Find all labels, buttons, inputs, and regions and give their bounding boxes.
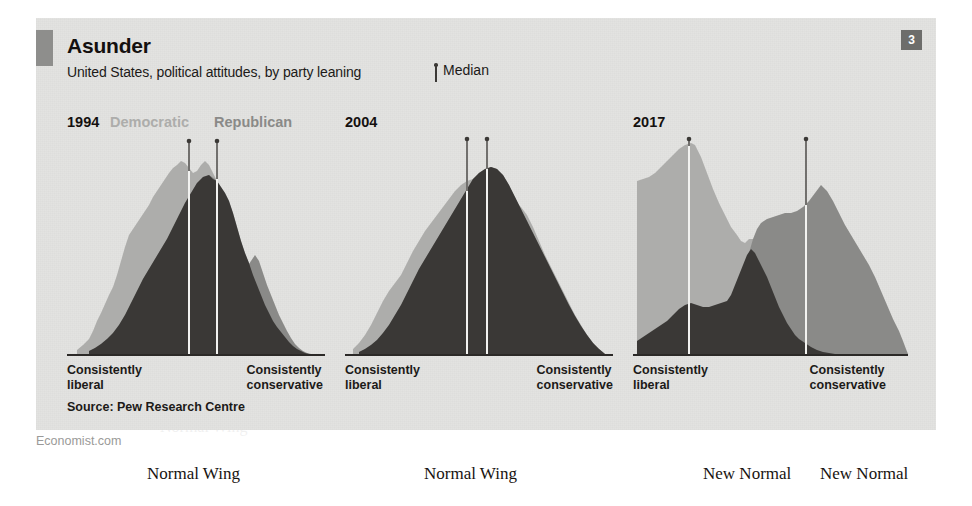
legend-median: Median	[434, 62, 489, 82]
axis-caption-right: Consistently conservative	[247, 363, 323, 392]
plot-area-2004	[345, 135, 613, 354]
plot-area-2017	[633, 135, 908, 354]
annotation-new-normal-left: New Normal	[703, 464, 791, 484]
axis-caption-right-line2: conservative	[810, 378, 886, 393]
axis-caption-right: Consistently conservative	[810, 363, 886, 392]
baseline-axis	[633, 354, 908, 356]
median-marker-icon	[434, 63, 438, 82]
axis-caption-left-line2: liberal	[633, 378, 708, 393]
axis-caption-left-line1: Consistently	[633, 363, 708, 378]
axis-caption-left-line1: Consistently	[67, 363, 142, 378]
annotation-normal-wing-2004: Normal Wing	[424, 464, 517, 484]
axis-caption-right-line2: conservative	[537, 378, 613, 393]
axis-caption-left-line1: Consistently	[345, 363, 420, 378]
area-chart-svg	[633, 135, 908, 354]
source-note: Source: Pew Research Centre	[67, 400, 245, 414]
panel-1994: 1994 Democratic Republican	[67, 114, 325, 404]
chart-title: Asunder	[67, 34, 151, 58]
screenshot-root: Normal Wing 3 Asunder United States, pol…	[0, 0, 972, 506]
panel-year-label: 2017	[633, 114, 665, 130]
panel-year-label: 2004	[345, 114, 377, 130]
axis-caption-right-line2: conservative	[247, 378, 323, 393]
axis-caption-right-line1: Consistently	[810, 363, 886, 378]
plot-area-1994	[67, 135, 325, 354]
panel-year-label: 1994	[67, 114, 99, 130]
series-overlap-area	[359, 167, 605, 354]
baseline-axis	[67, 354, 325, 356]
legend-republican: Republican	[214, 114, 292, 130]
chart-subtitle: United States, political attitudes, by p…	[67, 64, 361, 80]
legend-democratic: Democratic	[110, 114, 189, 130]
axis-caption-left: Consistently liberal	[345, 363, 420, 392]
economist-chart-card: 3 Asunder United States, political attit…	[36, 18, 936, 430]
corner-marker	[36, 30, 53, 66]
baseline-axis	[345, 354, 613, 356]
axis-caption-left: Consistently liberal	[67, 363, 142, 392]
panel-2017: 2017	[633, 114, 908, 404]
axis-caption-left: Consistently liberal	[633, 363, 708, 392]
annotation-new-normal-right: New Normal	[820, 464, 908, 484]
panel-2004: 2004	[345, 114, 613, 404]
axis-caption-right-line1: Consistently	[537, 363, 613, 378]
axis-caption-right: Consistently conservative	[537, 363, 613, 392]
axis-caption-left-line2: liberal	[345, 378, 420, 393]
axis-caption-right-line1: Consistently	[247, 363, 323, 378]
axis-caption-left-line2: liberal	[67, 378, 142, 393]
area-chart-svg	[345, 135, 613, 354]
economist-watermark: Economist.com	[36, 434, 121, 448]
annotation-normal-wing-1994: Normal Wing	[147, 464, 240, 484]
legend-median-label: Median	[443, 62, 489, 78]
chart-number-badge: 3	[901, 30, 922, 50]
area-chart-svg	[67, 135, 325, 354]
